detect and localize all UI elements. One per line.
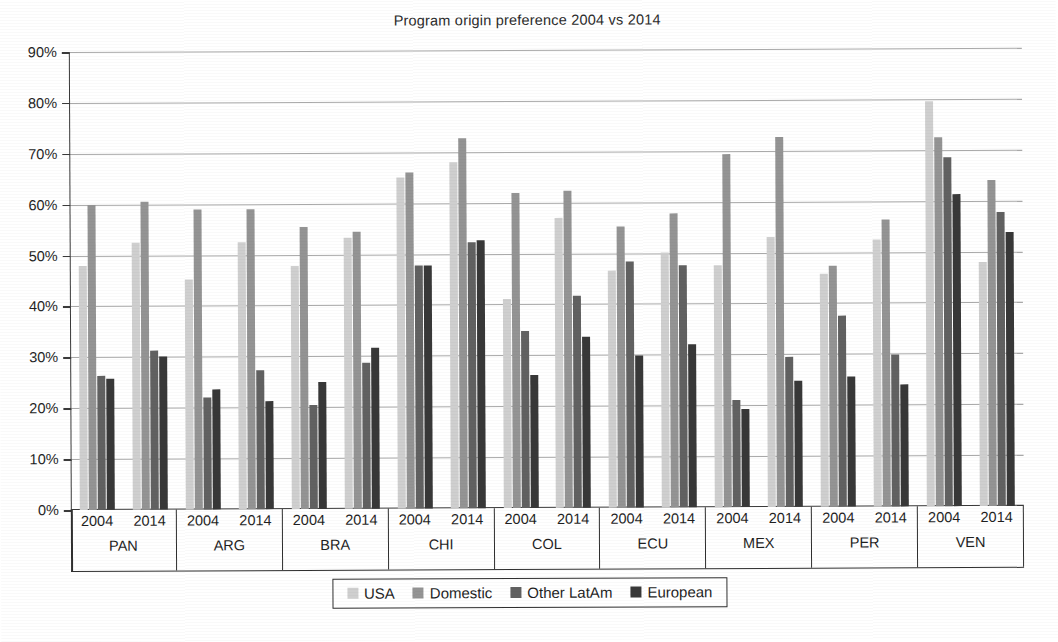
bar-european-arg-2014[interactable] — [265, 401, 273, 509]
bar-other-latam-pan-2004[interactable] — [97, 376, 106, 510]
bar-usa-ven-2014[interactable] — [979, 262, 988, 506]
bar-other-latam-ven-2014[interactable] — [997, 212, 1006, 506]
bar-domestic-ven-2014[interactable] — [987, 180, 996, 506]
bar-european-bra-2014[interactable] — [371, 347, 380, 508]
bar-usa-mex-2014[interactable] — [767, 237, 776, 507]
x-tick-label-country: ECU — [600, 535, 705, 551]
bar-usa-per-2014[interactable] — [873, 239, 882, 506]
country-group-pan — [69, 52, 177, 510]
bar-domestic-ven-2004[interactable] — [934, 137, 944, 506]
bar-domestic-arg-2004[interactable] — [193, 209, 202, 509]
x-tick-label-country: ARG — [177, 537, 282, 553]
legend-label: European — [647, 583, 712, 600]
bar-european-per-2004[interactable] — [847, 377, 856, 507]
bar-cluster-pan-2004 — [69, 52, 124, 510]
bar-other-latam-arg-2014[interactable] — [256, 370, 265, 509]
category-cell-bra: 20042014BRA — [283, 509, 389, 570]
bar-other-latam-arg-2004[interactable] — [203, 397, 211, 509]
bar-cluster-col-2014 — [545, 50, 600, 508]
bar-other-latam-col-2014[interactable] — [573, 296, 582, 508]
bar-european-col-2014[interactable] — [583, 336, 592, 508]
chart-root: Program origin preference 2004 vs 2014 0… — [0, 0, 1058, 642]
bar-other-latam-ecu-2004[interactable] — [626, 261, 635, 507]
bar-usa-pan-2014[interactable] — [132, 243, 141, 510]
bar-european-chi-2004[interactable] — [423, 266, 432, 509]
bar-usa-per-2004[interactable] — [820, 274, 829, 507]
bar-cluster-arg-2004 — [175, 51, 230, 509]
bar-european-pan-2014[interactable] — [159, 357, 168, 510]
bar-other-latam-chi-2014[interactable] — [467, 242, 476, 508]
bar-usa-bra-2004[interactable] — [291, 266, 300, 509]
bar-domestic-per-2014[interactable] — [882, 219, 891, 506]
bar-usa-mex-2004[interactable] — [714, 265, 723, 507]
bar-domestic-ecu-2004[interactable] — [617, 227, 626, 508]
bar-other-latam-per-2004[interactable] — [838, 315, 847, 506]
bar-other-latam-bra-2004[interactable] — [309, 405, 317, 509]
bar-cluster-per-2004 — [810, 49, 865, 507]
bar-domestic-pan-2004[interactable] — [87, 205, 96, 510]
legend-item-domestic[interactable]: Domestic — [413, 584, 493, 601]
bar-european-pan-2004[interactable] — [106, 379, 115, 510]
bar-european-col-2004[interactable] — [530, 375, 539, 508]
bar-domestic-arg-2014[interactable] — [246, 209, 255, 509]
y-tick-label: 90% — [28, 44, 57, 60]
bar-european-arg-2004[interactable] — [212, 389, 221, 509]
bar-other-latam-chi-2004[interactable] — [414, 266, 423, 509]
x-tick-label-year: 2014 — [547, 511, 600, 527]
bar-other-latam-per-2014[interactable] — [891, 355, 900, 507]
bar-domestic-mex-2004[interactable] — [723, 154, 733, 507]
bar-domestic-col-2014[interactable] — [564, 191, 573, 508]
legend-item-other-latam[interactable]: Other LatAm — [510, 584, 612, 601]
x-tick-label-year: 2004 — [389, 511, 442, 527]
y-tick-label: 20% — [29, 400, 58, 416]
bar-european-mex-2014[interactable] — [795, 381, 804, 507]
bar-domestic-ecu-2014[interactable] — [670, 214, 679, 508]
bar-usa-ecu-2014[interactable] — [661, 252, 670, 507]
bar-other-latam-pan-2014[interactable] — [150, 351, 159, 510]
bar-domestic-chi-2004[interactable] — [405, 173, 414, 509]
bar-cluster-bra-2014 — [334, 51, 389, 509]
bar-european-mex-2004[interactable] — [742, 409, 750, 507]
bar-european-ven-2004[interactable] — [953, 194, 962, 506]
bar-european-ven-2014[interactable] — [1006, 232, 1015, 506]
bar-domestic-bra-2004[interactable] — [299, 227, 308, 509]
bar-other-latam-ven-2004[interactable] — [943, 157, 953, 506]
bar-domestic-col-2004[interactable] — [511, 193, 520, 509]
bar-european-chi-2014[interactable] — [476, 241, 485, 509]
bar-european-ecu-2004[interactable] — [636, 356, 645, 508]
bar-domestic-chi-2014[interactable] — [458, 138, 468, 509]
bar-other-latam-mex-2004[interactable] — [733, 400, 741, 507]
bar-usa-chi-2014[interactable] — [449, 162, 459, 508]
bar-usa-arg-2014[interactable] — [237, 243, 246, 510]
legend-item-usa[interactable]: USA — [347, 585, 395, 602]
bar-other-latam-mex-2014[interactable] — [785, 357, 794, 507]
bar-european-bra-2004[interactable] — [318, 382, 327, 509]
bar-other-latam-ecu-2014[interactable] — [679, 266, 688, 508]
bar-european-per-2014[interactable] — [900, 384, 909, 506]
legend-label: Domestic — [430, 584, 493, 601]
x-tick-label-country: PAN — [71, 538, 176, 554]
bar-usa-bra-2014[interactable] — [343, 238, 352, 509]
bar-other-latam-bra-2014[interactable] — [362, 363, 371, 509]
x-tick-label-year: 2014 — [123, 513, 176, 529]
bar-usa-chi-2004[interactable] — [396, 178, 405, 509]
bar-european-ecu-2014[interactable] — [688, 344, 697, 507]
bar-usa-ecu-2004[interactable] — [608, 271, 617, 508]
bar-usa-col-2004[interactable] — [502, 299, 511, 508]
category-cell-arg: 20042014ARG — [177, 509, 283, 570]
chart-title: Program origin preference 2004 vs 2014 — [0, 10, 1056, 31]
bar-usa-col-2014[interactable] — [555, 218, 564, 508]
legend-item-european[interactable]: European — [630, 583, 712, 600]
bar-other-latam-col-2004[interactable] — [521, 331, 530, 508]
bar-usa-pan-2004[interactable] — [79, 266, 88, 510]
category-year-row: 20042014 — [812, 509, 917, 525]
legend-label: USA — [364, 585, 395, 602]
x-tick-label-year: 2014 — [335, 512, 388, 528]
country-group-ven — [916, 48, 1024, 506]
bar-domestic-per-2004[interactable] — [829, 266, 838, 507]
bar-usa-arg-2004[interactable] — [185, 279, 194, 509]
bar-domestic-mex-2014[interactable] — [775, 137, 785, 507]
bar-domestic-pan-2014[interactable] — [140, 201, 149, 509]
bar-domestic-bra-2014[interactable] — [352, 231, 361, 508]
category-cell-mex: 20042014MEX — [706, 507, 812, 568]
